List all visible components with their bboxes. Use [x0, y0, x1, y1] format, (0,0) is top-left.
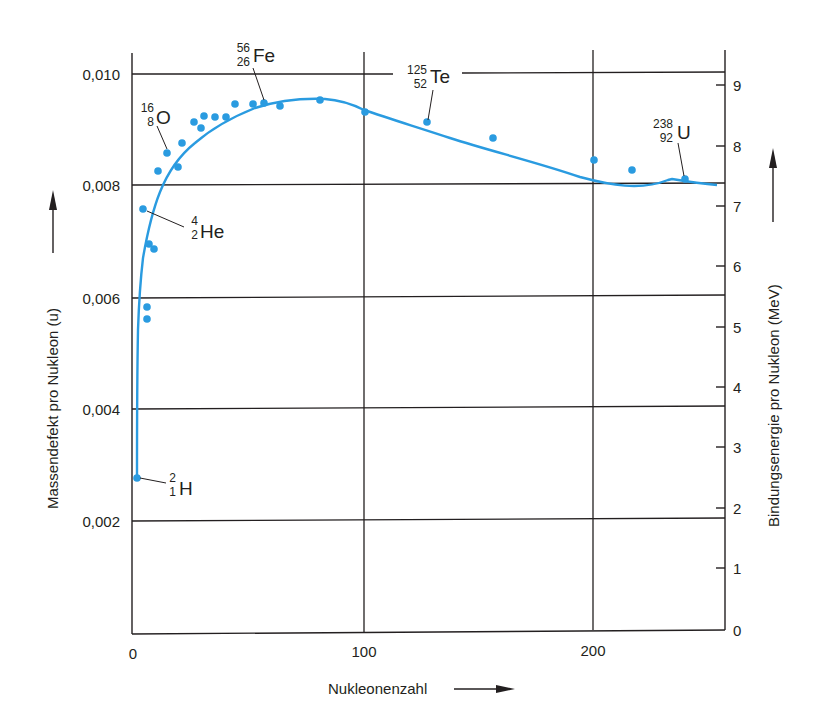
- te125-mass-number: 125: [407, 63, 427, 77]
- r-tick-2: 2: [733, 500, 741, 517]
- right-axis-ticks: [716, 85, 725, 568]
- r-tick-6: 6: [733, 258, 741, 275]
- r-tick-0: 0: [733, 622, 741, 639]
- left-tick-labels: 0,010 0,008 0,006 0,004 0,002: [82, 66, 120, 530]
- data-point: [190, 118, 198, 126]
- y-axis-right-label: Bindungsenergie pro Nukleon (MeV): [765, 284, 782, 527]
- annotation-h2: 2 1 H: [140, 471, 193, 499]
- data-point: [590, 156, 598, 164]
- data-point: [154, 167, 162, 175]
- y-tick-0008: 0,008: [82, 177, 120, 194]
- right-axis-title: Bindungsenergie pro Nukleon (MeV): [765, 148, 782, 527]
- y-tick-0004: 0,004: [82, 401, 120, 418]
- data-point: [200, 112, 208, 120]
- u238-atomic-number: 92: [660, 131, 674, 145]
- data-point: [276, 102, 284, 110]
- data-point: [143, 303, 151, 311]
- data-point: [174, 163, 182, 171]
- r-tick-8: 8: [733, 138, 741, 155]
- he4-symbol: He: [200, 221, 224, 242]
- y-axis-left-arrow-icon: [49, 190, 57, 210]
- data-point: [211, 113, 219, 121]
- o16-mass-number: 16: [141, 101, 155, 115]
- axes: [132, 50, 725, 634]
- o16-atomic-number: 8: [147, 115, 154, 129]
- x-axis-label: Nukleonenzahl: [328, 680, 427, 697]
- u238-symbol: U: [677, 122, 691, 143]
- right-tick-labels: 9 8 7 6 5 4 3 2 1 0: [733, 77, 741, 639]
- annotation-he4: 4 2 He: [147, 211, 224, 242]
- data-point: [133, 474, 141, 482]
- x-tick-labels: 0 100 200: [129, 642, 606, 662]
- o16-symbol: O: [156, 107, 171, 128]
- fe56-symbol: Fe: [253, 45, 275, 66]
- x-tick-200: 200: [580, 642, 605, 659]
- vertical-gridlines: [364, 50, 593, 632]
- data-point: [197, 124, 205, 132]
- fe56-atomic-number: 26: [237, 55, 251, 69]
- data-point: [163, 149, 171, 157]
- r-tick-3: 3: [733, 439, 741, 456]
- r-tick-5: 5: [733, 319, 741, 336]
- gridline-0004: [132, 406, 725, 409]
- data-points: [133, 96, 689, 482]
- u238-mass-number: 238: [653, 117, 673, 131]
- h2-atomic-number: 1: [169, 485, 176, 499]
- h2-symbol: H: [179, 478, 193, 499]
- te125-symbol: Te: [430, 66, 450, 87]
- y-tick-0006: 0,006: [82, 290, 120, 307]
- annotation-u238: 238 92 U: [653, 117, 691, 176]
- data-point: [316, 96, 324, 104]
- x-tick-100: 100: [351, 643, 376, 660]
- annotation-o16: 16 8 O: [141, 101, 171, 149]
- data-point: [260, 99, 268, 107]
- x-axis-arrow-icon: [496, 685, 515, 693]
- annotation-te125: 125 52 Te: [407, 63, 450, 120]
- he4-mass-number: 4: [191, 214, 198, 228]
- data-point: [489, 134, 497, 142]
- bottom-axis: [132, 630, 725, 634]
- left-axis-title: Massendefekt pro Nukleon (u): [44, 190, 61, 509]
- he4-atomic-number: 2: [191, 228, 198, 242]
- gridline-0006: [132, 295, 725, 298]
- data-point: [143, 315, 151, 323]
- x-tick-0: 0: [129, 645, 137, 662]
- h2-mass-number: 2: [169, 471, 176, 485]
- y-axis-right-arrow-icon: [769, 148, 777, 168]
- te125-atomic-number: 52: [414, 77, 428, 91]
- r-tick-1: 1: [733, 560, 741, 577]
- data-point: [139, 205, 147, 213]
- data-point: [628, 166, 636, 174]
- annotation-fe56: 56 26 Fe: [237, 41, 276, 100]
- gridline-0002: [132, 518, 725, 521]
- data-point: [681, 175, 689, 183]
- data-point: [178, 139, 186, 147]
- data-point: [361, 108, 369, 116]
- r-tick-7: 7: [733, 198, 741, 215]
- x-axis-title: Nukleonenzahl: [328, 680, 515, 697]
- fit-curve: [137, 99, 717, 478]
- y-axis-left-label: Massendefekt pro Nukleon (u): [44, 308, 61, 509]
- data-point: [231, 100, 239, 108]
- data-point: [222, 113, 230, 121]
- fe56-mass-number: 56: [237, 41, 251, 55]
- data-point: [423, 118, 431, 126]
- y-tick-0002: 0,002: [82, 513, 120, 530]
- r-tick-9: 9: [733, 77, 741, 94]
- y-tick-0010: 0,010: [82, 66, 120, 83]
- gridline-0008: [132, 183, 725, 185]
- data-point: [249, 100, 257, 108]
- horizontal-gridlines: [132, 72, 725, 521]
- r-tick-4: 4: [733, 379, 741, 396]
- binding-energy-chart: 0,010 0,008 0,006 0,004 0,002 9 8 7 6 5 …: [0, 0, 821, 725]
- data-point: [150, 245, 158, 253]
